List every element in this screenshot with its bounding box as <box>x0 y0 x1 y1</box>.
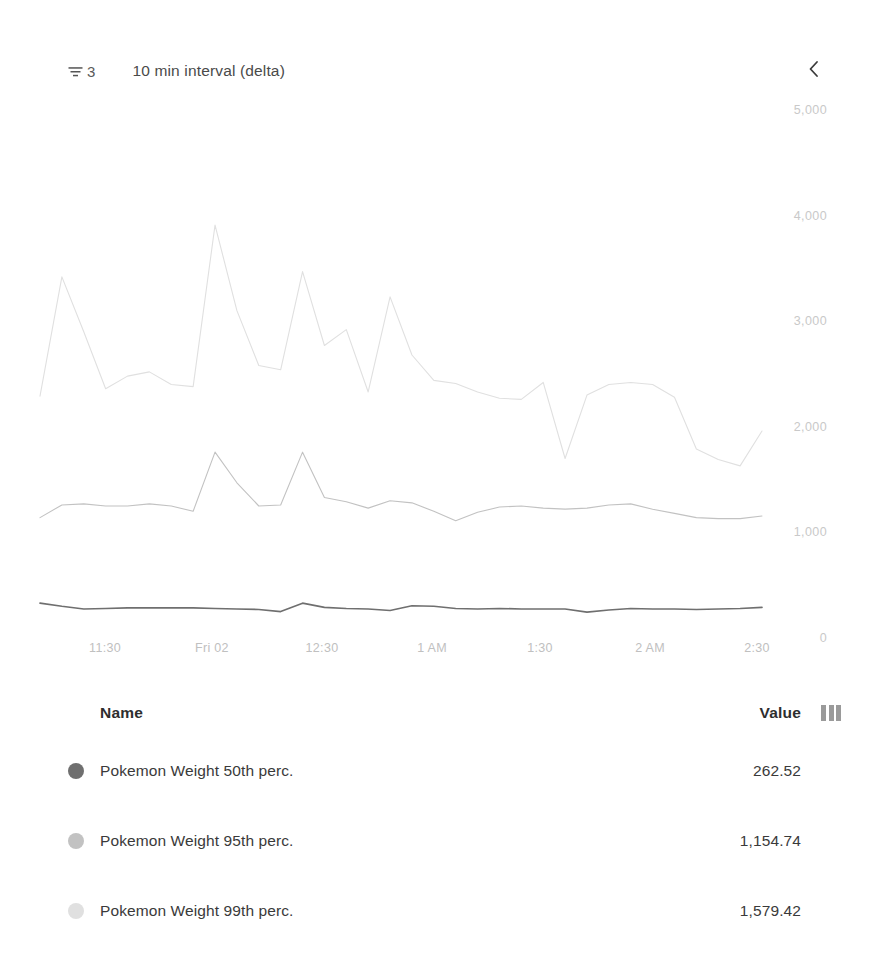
series-line <box>40 603 762 612</box>
series-line <box>40 452 762 521</box>
columns-icon-bar-2 <box>829 705 834 721</box>
legend-series-value: 1,154.74 <box>681 832 801 850</box>
collapse-button[interactable] <box>803 60 825 82</box>
legend-row[interactable]: Pokemon Weight 99th perc.1,579.42 <box>0 876 871 946</box>
legend-column-name[interactable]: Name <box>100 704 681 722</box>
legend-series-name: Pokemon Weight 99th perc. <box>100 902 681 920</box>
legend-series-name: Pokemon Weight 95th perc. <box>100 832 681 850</box>
series-line <box>40 225 762 466</box>
filter-count: 3 <box>87 63 95 80</box>
legend-table: Name Value Pokemon Weight 50th perc.262.… <box>0 690 871 946</box>
chevron-left-icon <box>806 59 822 83</box>
panel-header: 3 10 min interval (delta) <box>0 50 871 92</box>
legend-series-name: Pokemon Weight 50th perc. <box>100 762 681 780</box>
timeseries-panel: 3 10 min interval (delta) 01,0002,0003,0… <box>0 0 871 980</box>
legend-row-list: Pokemon Weight 50th perc.262.52Pokemon W… <box>0 736 871 946</box>
columns-icon-bar-3 <box>836 705 841 721</box>
chart-plot <box>0 96 871 666</box>
columns-icon[interactable] <box>821 704 841 722</box>
legend-series-value: 1,579.42 <box>681 902 801 920</box>
series-color-swatch[interactable] <box>68 763 84 779</box>
series-color-swatch[interactable] <box>68 903 84 919</box>
legend-series-value: 262.52 <box>681 762 801 780</box>
chart-area[interactable]: 01,0002,0003,0004,0005,000 11:30Fri 0212… <box>0 96 871 666</box>
legend-column-value[interactable]: Value <box>681 704 801 722</box>
legend-header-row: Name Value <box>0 690 871 736</box>
series-color-swatch[interactable] <box>68 833 84 849</box>
interval-label[interactable]: 10 min interval (delta) <box>132 62 285 80</box>
columns-icon-bar-1 <box>821 705 826 721</box>
filter-chip[interactable]: 3 <box>62 58 101 84</box>
funnel-icon <box>68 65 83 78</box>
legend-row[interactable]: Pokemon Weight 95th perc.1,154.74 <box>0 806 871 876</box>
legend-row[interactable]: Pokemon Weight 50th perc.262.52 <box>0 736 871 806</box>
